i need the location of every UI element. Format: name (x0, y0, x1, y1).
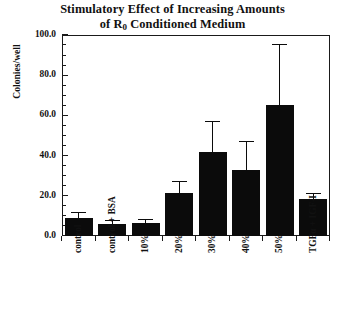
x-axis-category-label-7: TGFα + IGF-I (308, 195, 318, 253)
error-bar-stem-5 (246, 142, 247, 170)
y-axis-tick-label: 20.0 (16, 190, 56, 200)
x-axis-category-label-2: 10% (140, 234, 150, 253)
error-bar-cap-0 (71, 212, 86, 213)
y-axis-tick-minor (62, 105, 66, 106)
x-axis-tick-5 (262, 236, 263, 241)
x-axis-tick-0 (95, 236, 96, 241)
y-axis-tick-minor (62, 85, 66, 86)
y-axis-tick-minor (62, 125, 66, 126)
x-axis-category-label-5: 40% (241, 234, 251, 253)
error-bar-stem-4 (212, 121, 213, 151)
y-axis-tick-label: 60.0 (16, 109, 56, 119)
bar-5[interactable] (232, 170, 260, 236)
error-bar-stem-0 (78, 213, 79, 218)
x-axis-category-label-1: control + BSA (107, 196, 117, 253)
error-bar-stem-3 (179, 182, 180, 193)
y-axis-tick-major (62, 155, 68, 156)
x-axis-category-label-0: control (73, 225, 83, 253)
y-axis-tick-minor (62, 65, 66, 66)
error-bar-cap-2 (138, 219, 153, 220)
error-bar-stem-2 (145, 220, 146, 223)
y-axis-tick-label: 100.0 (16, 29, 56, 39)
x-axis-tick-6 (296, 236, 297, 241)
y-axis-tick-minor (62, 95, 66, 96)
y-axis-tick-minor (62, 145, 66, 146)
r-zero-subscript: 0 (122, 22, 127, 32)
y-axis-tick-minor (62, 215, 66, 216)
y-axis-tick-minor (62, 205, 66, 206)
error-bar-cap-7 (306, 193, 321, 194)
y-axis-tick-label: 40.0 (16, 150, 56, 160)
y-axis-tick-major (62, 34, 68, 35)
error-bar-cap-6 (272, 44, 287, 45)
x-axis-tick-7 (329, 236, 330, 241)
x-axis-tick-4 (229, 236, 230, 241)
chart-title-line-2-pre: of R (100, 17, 123, 31)
x-axis-tick-2 (162, 236, 163, 241)
y-axis-tick-major (62, 115, 68, 116)
y-axis-tick-minor (62, 135, 66, 136)
x-axis-category-label-3: 20% (174, 234, 184, 253)
bar-6[interactable] (266, 105, 294, 236)
chart-title-line-2-post: Conditioned Medium (127, 17, 245, 31)
x-axis-tick-3 (195, 236, 196, 241)
error-bar-cap-5 (239, 141, 254, 142)
x-axis-category-label-4: 30% (207, 234, 217, 253)
y-axis-tick-major (62, 195, 68, 196)
x-axis-tick-origin (61, 236, 62, 241)
bar-3[interactable] (165, 193, 193, 236)
y-axis-tick-minor (62, 175, 66, 176)
y-axis-tick-minor (62, 185, 66, 186)
bar-4[interactable] (199, 152, 227, 236)
y-axis-tick-major (62, 75, 68, 76)
y-axis-tick-minor (62, 44, 66, 45)
x-axis-category-label-6: 50% (274, 234, 284, 253)
y-axis-tick-minor (62, 165, 66, 166)
x-axis-tick-1 (128, 236, 129, 241)
chart-title-line-1: Stimulatory Effect of Increasing Amounts (0, 2, 345, 17)
chart-title: Stimulatory Effect of Increasing Amounts… (0, 2, 345, 32)
y-axis-tick-minor (62, 55, 66, 56)
error-bar-stem-6 (279, 45, 280, 105)
error-bar-cap-4 (205, 121, 220, 122)
y-axis-tick-label: 0.0 (16, 230, 56, 240)
error-bar-cap-3 (172, 181, 187, 182)
y-axis-tick-label: 80.0 (16, 69, 56, 79)
